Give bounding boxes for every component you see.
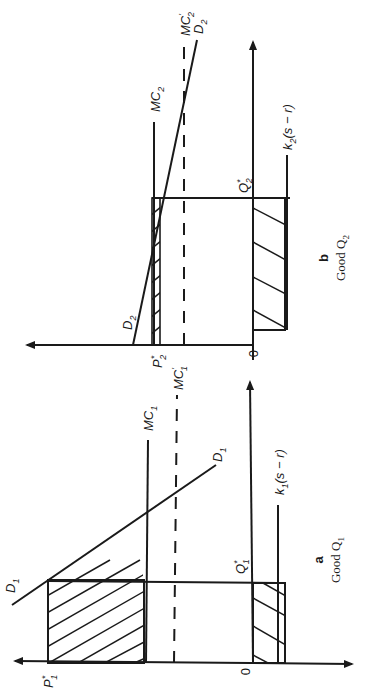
panel-a-demand-line: [12, 465, 216, 605]
panel-a-quantity-star-line: [48, 581, 278, 583]
svg-text:a: a: [311, 556, 326, 564]
panel-b-hatch-lines-cost: [253, 208, 286, 328]
panel-a-demand-top-label: D1: [210, 448, 228, 462]
panel-a-letter: a: [311, 556, 326, 564]
svg-text:k1(s − r): k1(s − r): [272, 449, 290, 495]
svg-text:MC1: MC1: [141, 406, 159, 431]
svg-text:MC'1: MC'1: [170, 366, 189, 390]
svg-text:0: 0: [246, 350, 261, 357]
panel-a-hatched-area-cost: [253, 583, 285, 663]
svg-text:P*1: P*1: [40, 675, 59, 688]
svg-text:Good Q1: Good Q1: [328, 537, 346, 583]
svg-text:b: b: [316, 254, 331, 262]
svg-text:D2: D2: [120, 316, 138, 330]
panel-a: MC1 MC'1 D1 D1 P*1 0 Q*1 k1(s − r) a Goo…: [3, 366, 352, 688]
panel-b-demand-top-label: D2: [191, 20, 209, 34]
svg-text:P*2: P*2: [149, 355, 168, 368]
panel-b-hatched-area-cost: [253, 198, 285, 330]
svg-text:Q*2: Q*2: [235, 178, 254, 193]
panel-a-mc-label: MC1: [141, 406, 159, 431]
svg-text:D2: D2: [191, 20, 209, 34]
panel-b: MC2 MC'2 D2 D2 P*2 0 Q*2 k2(s − r) b Goo…: [27, 12, 351, 368]
panel-a-quantity-star-label: Q*1: [232, 559, 251, 574]
panel-a-cost-label: k1(s − r): [272, 449, 290, 495]
panel-b-mc-label: MC2: [148, 87, 166, 112]
panel-a-hatch-lines-price: [40, 560, 150, 676]
panel-a-hatch-lines-cost: [253, 583, 286, 664]
svg-text:D1: D1: [3, 579, 21, 593]
panel-a-origin-label: 0: [238, 668, 253, 675]
svg-text:D1: D1: [210, 448, 228, 462]
panel-b-demand-line: [133, 40, 197, 345]
economics-diagram: MC2 MC'2 D2 D2 P*2 0 Q*2 k2(s − r) b Goo…: [0, 0, 380, 689]
svg-text:Good Q2: Good Q2: [333, 235, 351, 281]
panel-a-price-star-label: P*1: [40, 675, 59, 688]
panel-b-caption: Good Q2: [333, 235, 351, 281]
svg-text:0: 0: [238, 668, 253, 675]
panel-b-demand-bottom-label: D2: [120, 316, 138, 330]
panel-a-demand-bottom-label: D1: [3, 579, 21, 593]
panel-a-mc-prime-label: MC'1: [170, 366, 189, 390]
panel-a-mc-line: [146, 440, 148, 663]
panel-b-cost-label: k2(s − r): [280, 104, 298, 150]
svg-text:Q*1: Q*1: [232, 559, 251, 574]
panel-b-price-star-label: P*2: [149, 355, 168, 368]
panel-b-quantity-star-label: Q*2: [235, 178, 254, 193]
panel-a-mc-prime-line: [174, 395, 177, 663]
panel-b-origin-label: 0: [246, 350, 261, 357]
svg-text:MC2: MC2: [148, 87, 166, 112]
panel-b-letter: b: [316, 254, 331, 262]
panel-a-caption: Good Q1: [328, 537, 346, 583]
svg-text:k2(s − r): k2(s − r): [280, 104, 298, 150]
